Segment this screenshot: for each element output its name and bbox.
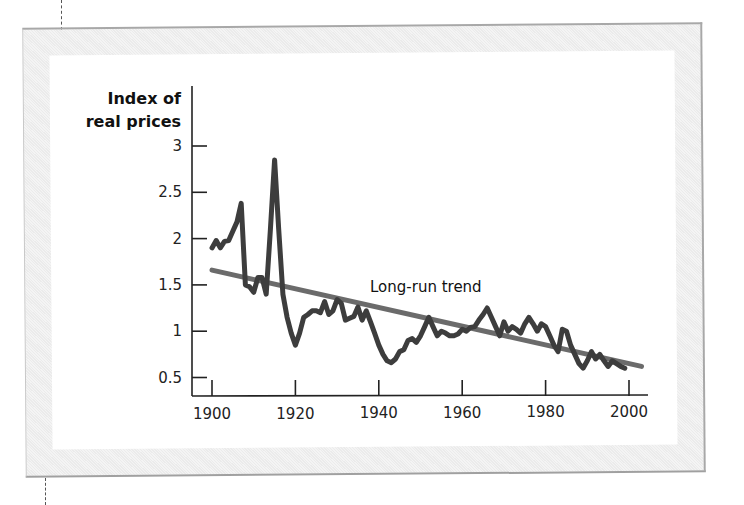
- y-tick-label: 1.5: [158, 276, 182, 294]
- y-tick-label: 3: [172, 137, 182, 155]
- y-tick-label: 1: [172, 322, 182, 340]
- trend-annotation: Long-run trend: [370, 278, 482, 296]
- y-tick-label: 2.5: [158, 183, 182, 201]
- price-index-line: [212, 160, 625, 368]
- x-tick-label: 1960: [443, 404, 481, 422]
- y-tick-label: 2: [172, 230, 182, 248]
- x-axis-line: [192, 395, 648, 396]
- x-tick-label: 1900: [193, 405, 231, 423]
- x-tick-label: 1980: [527, 403, 565, 421]
- line-chart: Index of real prices 0.511.522.53 190019…: [0, 0, 744, 505]
- x-tick-label: 1940: [360, 404, 398, 422]
- y-axis-label-line-2: real prices: [86, 112, 181, 131]
- x-tick-label: 2000: [610, 403, 648, 421]
- x-tick-label: 1920: [276, 405, 314, 423]
- x-axis-ticks: 190019201940196019802000: [193, 380, 648, 423]
- y-axis-ticks: 0.511.522.53: [158, 137, 207, 387]
- y-tick-label: 0.5: [158, 369, 182, 387]
- y-axis-label-line-1: Index of: [108, 89, 183, 108]
